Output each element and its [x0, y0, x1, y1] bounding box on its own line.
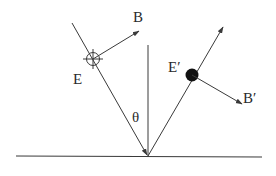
reflected-b-vector [192, 75, 242, 104]
incident-ray [72, 23, 147, 155]
label-b-prime: B′ [243, 90, 256, 106]
label-e: E [73, 71, 82, 87]
label-b: B [133, 9, 143, 25]
reflection-diagram: E B E′ B′ θ [0, 0, 276, 176]
reflecting-surface [16, 156, 262, 157]
incident-b-vector [93, 31, 139, 59]
label-theta: θ [132, 109, 139, 125]
label-e-prime: E′ [168, 59, 180, 75]
reflected-ray [148, 27, 223, 156]
